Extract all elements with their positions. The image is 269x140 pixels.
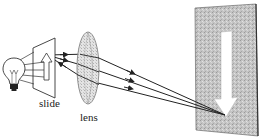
slide xyxy=(33,38,55,98)
screen xyxy=(195,4,258,136)
projector-diagram xyxy=(0,0,269,140)
light-bulb-icon xyxy=(3,58,25,91)
lens-label: lens xyxy=(80,112,98,123)
slide-label: slide xyxy=(39,98,60,109)
